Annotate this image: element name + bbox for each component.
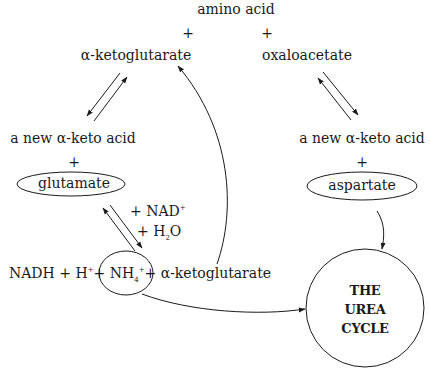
right-reverse-arrow [318,78,351,120]
new-keto-acid-left-label: a new α-keto acid [10,131,136,145]
new-keto-acid-right-label: a new α-keto acid [299,131,425,145]
urea-line-3: CYCLE [341,319,388,338]
water-o-text: O [170,223,181,239]
nad-charge: + [180,204,186,212]
aspartate-to-urea-arrow [377,211,384,249]
nadh-text: NADH + H [9,265,88,281]
alpha-ketoglutarate-label: α-ketoglutarate [81,48,191,62]
oxaloacetate-label: oxaloacetate [262,48,352,62]
glutamate-label: glutamate [38,176,110,190]
water-reagent-label: + H2O [137,224,181,238]
nad-reagent-label: + NAD+ [130,204,186,218]
plus-right-mid: + [356,155,368,169]
products-equation: NADH + H++ NH4++ α-ketoglutarate [9,266,271,280]
ammonium-subscript: 4 [134,276,138,284]
nad-text: + NAD [130,203,180,219]
urea-cycle-label: THE UREA CYCLE [341,281,388,338]
urea-cycle-diagram: amino acid + + α-ketoglutarate oxaloacet… [0,0,430,373]
urea-line-1: THE [341,281,388,300]
ammonium-text: + NH [94,265,135,281]
water-h-text: + H [137,223,165,239]
amino-acid-label: amino acid [197,2,275,16]
plus-left-mid: + [68,155,80,169]
urea-line-2: UREA [341,300,388,319]
ketoglutarate-product-text: + α-ketoglutarate [145,265,272,281]
left-forward-arrow [87,73,120,116]
recycle-arrow [178,66,227,264]
aspartate-label: aspartate [328,178,395,192]
left-reverse-arrow [94,77,127,121]
plus-right-top: + [261,26,273,40]
ammonium-to-urea-arrow [142,294,305,312]
plus-left-top: + [182,26,194,40]
right-forward-arrow [323,72,358,115]
